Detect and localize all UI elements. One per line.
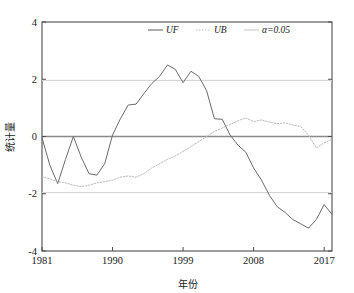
y-tick-label: -4 xyxy=(28,246,37,257)
series-ub xyxy=(42,118,332,187)
data-series-layer xyxy=(42,65,332,228)
x-tick-label: 1990 xyxy=(102,255,123,266)
mann-kendall-chart: 19811990199920082017 -4-2024 UFUBα=0.05 … xyxy=(0,0,354,293)
y-tick-label: 2 xyxy=(32,74,37,85)
legend-label: UF xyxy=(166,25,179,35)
x-tick-label: 2008 xyxy=(243,255,264,266)
legend-label: UB xyxy=(214,25,227,35)
series-uf xyxy=(42,65,332,228)
x-tick-label: 2017 xyxy=(314,255,335,266)
y-tick-label: 4 xyxy=(32,17,38,28)
legend-label: α=0.05 xyxy=(262,25,290,35)
x-tick-label: 1981 xyxy=(32,255,53,266)
chart-legend: UFUBα=0.05 xyxy=(148,25,290,35)
y-tick-label: 0 xyxy=(32,131,37,142)
y-tick-label: -2 xyxy=(28,188,37,199)
x-axis-title: 年份 xyxy=(178,278,198,290)
x-tick-label: 1999 xyxy=(173,255,194,266)
x-axis-ticks: 19811990199920082017 xyxy=(32,247,335,266)
chart-container: 19811990199920082017 -4-2024 UFUBα=0.05 … xyxy=(0,0,354,293)
y-axis-title: 统计量 xyxy=(4,122,16,152)
